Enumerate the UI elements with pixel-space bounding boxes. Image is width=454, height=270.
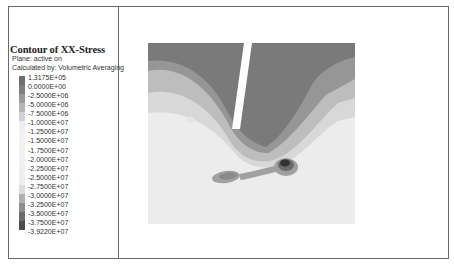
color-bar-segment bbox=[19, 157, 25, 166]
color-bar-segment bbox=[19, 185, 25, 194]
legend-calc-text: Calculated by: Volumetric Averaging bbox=[12, 64, 122, 73]
color-bar-segment bbox=[19, 112, 25, 121]
color-bar-segment bbox=[19, 103, 25, 112]
legend-tick-label: -2.5000E+06 bbox=[28, 91, 68, 100]
color-bar-segment bbox=[19, 176, 25, 185]
contour-plot-svg bbox=[148, 43, 355, 224]
color-bar-segment bbox=[19, 166, 25, 175]
color-bar-segment bbox=[19, 139, 25, 148]
color-bar-segment bbox=[19, 212, 25, 221]
color-bar-segment bbox=[19, 221, 25, 230]
legend-tick-label: -1.7500E+07 bbox=[28, 146, 68, 155]
legend-tick-label: -2.2500E+07 bbox=[28, 164, 68, 173]
legend-tick-label: -3.0000E+07 bbox=[28, 191, 68, 200]
color-bar-segment bbox=[19, 130, 25, 139]
legend-tick-label: -1.5000E+07 bbox=[28, 136, 68, 145]
legend-tick-label: -5.0000E+06 bbox=[28, 100, 68, 109]
legend-tick-label: -1.0000E+07 bbox=[28, 118, 68, 127]
color-bar-segment bbox=[19, 148, 25, 157]
legend-title: Contour of XX-Stress bbox=[10, 44, 122, 55]
color-bar-segment bbox=[19, 194, 25, 203]
crack-tip-notch bbox=[185, 117, 195, 123]
color-bar-segment bbox=[19, 121, 25, 130]
legend-tick-list: 1.3175E+050.0000E+00-2.5000E+06-5.0000E+… bbox=[28, 73, 68, 236]
legend-tick-label: -3.5000E+07 bbox=[28, 209, 68, 218]
color-bar-segment bbox=[19, 94, 25, 103]
legend-tick-label: -2.5000E+07 bbox=[28, 173, 68, 182]
legend-tick-label: 0.0000E+00 bbox=[28, 82, 68, 91]
legend-tick-label: 1.3175E+05 bbox=[28, 73, 68, 82]
contour-legend: Contour of XX-Stress Plane: active on Ca… bbox=[10, 44, 122, 243]
legend-tick-label: -1.2500E+07 bbox=[28, 127, 68, 136]
color-bar bbox=[19, 76, 25, 230]
legend-body: 1.3175E+050.0000E+00-2.5000E+06-5.0000E+… bbox=[10, 73, 122, 243]
legend-tick-label: -3.7500E+07 bbox=[28, 218, 68, 227]
legend-tick-label: -2.0000E+07 bbox=[28, 155, 68, 164]
color-bar-segment bbox=[19, 85, 25, 94]
legend-tick-label: -2.7500E+07 bbox=[28, 182, 68, 191]
stress-blob-core bbox=[280, 160, 290, 167]
legend-plane-text: Plane: active on bbox=[12, 55, 122, 64]
legend-tick-label: -7.5000E+06 bbox=[28, 109, 68, 118]
color-bar-segment bbox=[19, 203, 25, 212]
color-bar-segment bbox=[19, 76, 25, 85]
legend-tick-label: -3.9220E+07 bbox=[28, 227, 68, 236]
legend-tick-label: -3.2500E+07 bbox=[28, 200, 68, 209]
contour-plot bbox=[148, 43, 355, 224]
